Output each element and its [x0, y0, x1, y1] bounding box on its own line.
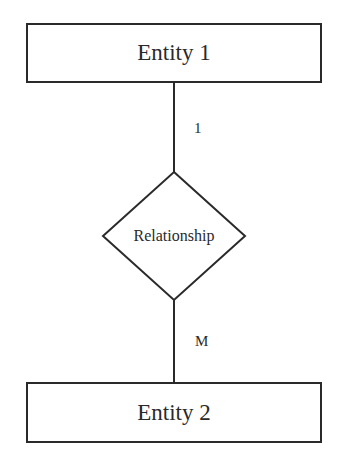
entity-1-box: Entity 1: [26, 23, 322, 83]
cardinality-m-label: M: [195, 334, 208, 349]
entity-2-label: Entity 2: [137, 400, 210, 426]
entity-2-box: Entity 2: [26, 382, 322, 443]
cardinality-1-label: 1: [194, 121, 202, 136]
entity-1-label: Entity 1: [137, 40, 210, 66]
relationship-label: Relationship: [103, 228, 245, 244]
